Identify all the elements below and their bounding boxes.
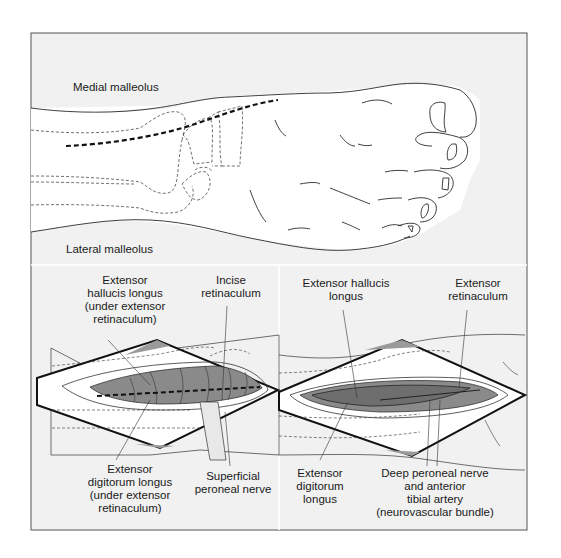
label-extensor-retinaculum: Extensor retinaculum xyxy=(433,277,523,303)
label-medial-malleolus: Medial malleolus xyxy=(73,81,159,94)
anterior-ankle-approach-figure: Medial malleolus Lateral malleolus Exten… xyxy=(0,0,561,558)
label-superficial-peroneal-nerve: Superficial peroneal nerve xyxy=(188,470,278,496)
label-ehl-left: Extensor hallucis longus (under extensor… xyxy=(70,274,180,326)
label-ehl-right: Extensor hallucis longus xyxy=(296,277,396,303)
label-lateral-malleolus: Lateral malleolus xyxy=(66,243,153,256)
label-deep-peroneal-nerve: Deep peroneal nerve and anterior tibial … xyxy=(370,467,500,519)
label-incise-retinaculum: Incise retinaculum xyxy=(196,274,266,300)
label-edl-left: Extensor digitorum longus (under extenso… xyxy=(70,463,190,515)
label-edl-right: Extensor digitorum longus xyxy=(285,467,355,506)
